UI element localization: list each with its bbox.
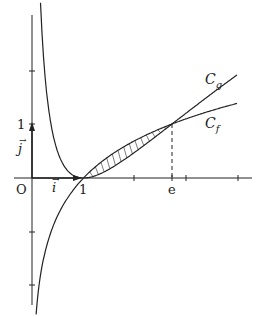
curve-g <box>41 3 238 178</box>
curve-f <box>36 103 237 314</box>
j-vector-label: →j <box>18 142 22 155</box>
hatched-region <box>90 124 172 177</box>
hatch-line <box>124 147 127 158</box>
curve-g-label: Cg <box>205 72 222 90</box>
hatch-line <box>141 138 144 146</box>
curve-f-subscript: f <box>216 123 220 134</box>
function-graph <box>0 0 263 317</box>
hatch-line <box>129 144 132 154</box>
curve-g-subscript: g <box>216 79 222 90</box>
hatch-line <box>135 141 138 150</box>
hatch-line <box>101 162 104 172</box>
hatch-line <box>107 158 110 169</box>
hatch-line <box>152 132 155 137</box>
unit-vector-j <box>29 122 35 178</box>
x-unit-label: 1 <box>79 183 87 196</box>
i-vector-label: →i <box>52 181 56 194</box>
curve-f-label: Cf <box>205 116 219 134</box>
e-label: e <box>168 183 176 196</box>
hatch-line <box>112 154 115 165</box>
y-unit-label: 1 <box>17 118 25 131</box>
hatch-line <box>118 150 121 162</box>
hatch-line <box>90 172 93 177</box>
curve-g-letter: C <box>205 71 216 87</box>
curve-f-letter: C <box>205 115 216 131</box>
origin-label: O <box>16 183 27 196</box>
hatch-line <box>95 167 98 175</box>
hatch-line <box>146 135 149 141</box>
